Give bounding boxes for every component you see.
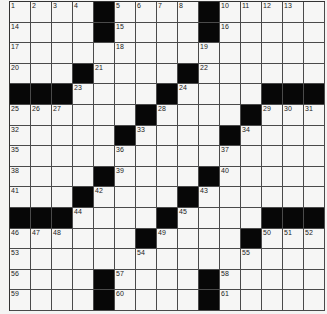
grid-cell[interactable]: 35 xyxy=(10,146,31,167)
grid-cell[interactable] xyxy=(241,64,262,85)
grid-cell[interactable]: 10 xyxy=(220,2,241,23)
grid-cell[interactable] xyxy=(241,43,262,64)
grid-cell[interactable] xyxy=(52,43,73,64)
grid-cell[interactable] xyxy=(199,146,220,167)
grid-cell[interactable]: 3 xyxy=(52,2,73,23)
grid-cell[interactable] xyxy=(283,290,304,311)
grid-cell[interactable] xyxy=(94,105,115,126)
grid-cell[interactable] xyxy=(73,290,94,311)
grid-cell[interactable] xyxy=(304,64,325,85)
grid-cell[interactable]: 18 xyxy=(115,43,136,64)
grid-cell[interactable]: 13 xyxy=(283,2,304,23)
grid-cell[interactable] xyxy=(283,270,304,291)
grid-cell[interactable] xyxy=(115,84,136,105)
grid-cell[interactable] xyxy=(73,43,94,64)
grid-cell[interactable] xyxy=(136,187,157,208)
grid-cell[interactable]: 34 xyxy=(241,126,262,147)
grid-cell[interactable] xyxy=(73,167,94,188)
grid-cell[interactable]: 5 xyxy=(115,2,136,23)
grid-cell[interactable] xyxy=(178,249,199,270)
grid-cell[interactable] xyxy=(115,105,136,126)
grid-cell[interactable] xyxy=(157,187,178,208)
grid-cell[interactable]: 22 xyxy=(199,64,220,85)
grid-cell[interactable] xyxy=(283,126,304,147)
grid-cell[interactable] xyxy=(241,23,262,44)
grid-cell[interactable] xyxy=(304,146,325,167)
grid-cell[interactable] xyxy=(262,270,283,291)
grid-cell[interactable] xyxy=(52,290,73,311)
grid-cell[interactable]: 17 xyxy=(10,43,31,64)
grid-cell[interactable] xyxy=(136,290,157,311)
grid-cell[interactable] xyxy=(115,187,136,208)
grid-cell[interactable]: 2 xyxy=(31,2,52,23)
grid-cell[interactable] xyxy=(31,146,52,167)
grid-cell[interactable] xyxy=(157,270,178,291)
grid-cell[interactable] xyxy=(199,84,220,105)
grid-cell[interactable] xyxy=(241,290,262,311)
grid-cell[interactable]: 8 xyxy=(178,2,199,23)
grid-cell[interactable]: 15 xyxy=(115,23,136,44)
grid-cell[interactable] xyxy=(262,167,283,188)
grid-cell[interactable]: 6 xyxy=(136,2,157,23)
grid-cell[interactable] xyxy=(136,270,157,291)
grid-cell[interactable] xyxy=(241,84,262,105)
grid-cell[interactable] xyxy=(283,23,304,44)
grid-cell[interactable]: 37 xyxy=(220,146,241,167)
grid-cell[interactable] xyxy=(52,64,73,85)
grid-cell[interactable]: 36 xyxy=(115,146,136,167)
grid-cell[interactable]: 42 xyxy=(94,187,115,208)
grid-cell[interactable] xyxy=(31,23,52,44)
grid-cell[interactable] xyxy=(94,229,115,250)
grid-cell[interactable]: 30 xyxy=(283,105,304,126)
grid-cell[interactable] xyxy=(136,23,157,44)
grid-cell[interactable] xyxy=(178,167,199,188)
grid-cell[interactable] xyxy=(241,146,262,167)
grid-cell[interactable] xyxy=(220,249,241,270)
grid-cell[interactable] xyxy=(283,64,304,85)
grid-cell[interactable] xyxy=(52,167,73,188)
grid-cell[interactable] xyxy=(283,146,304,167)
grid-cell[interactable] xyxy=(304,43,325,64)
grid-cell[interactable] xyxy=(262,126,283,147)
grid-cell[interactable] xyxy=(199,208,220,229)
grid-cell[interactable] xyxy=(220,64,241,85)
grid-cell[interactable] xyxy=(136,146,157,167)
grid-cell[interactable]: 59 xyxy=(10,290,31,311)
grid-cell[interactable]: 60 xyxy=(115,290,136,311)
grid-cell[interactable]: 39 xyxy=(115,167,136,188)
grid-cell[interactable] xyxy=(304,23,325,44)
grid-cell[interactable] xyxy=(157,146,178,167)
grid-cell[interactable] xyxy=(178,23,199,44)
grid-cell[interactable] xyxy=(262,249,283,270)
grid-cell[interactable] xyxy=(178,43,199,64)
grid-cell[interactable]: 1 xyxy=(10,2,31,23)
grid-cell[interactable]: 50 xyxy=(262,229,283,250)
grid-cell[interactable]: 55 xyxy=(241,249,262,270)
grid-cell[interactable] xyxy=(52,146,73,167)
grid-cell[interactable] xyxy=(199,105,220,126)
grid-cell[interactable] xyxy=(220,187,241,208)
grid-cell[interactable] xyxy=(31,126,52,147)
grid-cell[interactable]: 46 xyxy=(10,229,31,250)
grid-cell[interactable] xyxy=(31,249,52,270)
grid-cell[interactable]: 28 xyxy=(157,105,178,126)
grid-cell[interactable]: 53 xyxy=(10,249,31,270)
grid-cell[interactable]: 4 xyxy=(73,2,94,23)
grid-cell[interactable] xyxy=(157,126,178,147)
grid-cell[interactable] xyxy=(178,126,199,147)
grid-cell[interactable] xyxy=(178,105,199,126)
grid-cell[interactable] xyxy=(178,146,199,167)
grid-cell[interactable] xyxy=(94,43,115,64)
grid-cell[interactable] xyxy=(262,187,283,208)
grid-cell[interactable]: 56 xyxy=(10,270,31,291)
grid-cell[interactable]: 12 xyxy=(262,2,283,23)
grid-cell[interactable]: 19 xyxy=(199,43,220,64)
grid-cell[interactable] xyxy=(115,229,136,250)
grid-cell[interactable] xyxy=(31,290,52,311)
grid-cell[interactable] xyxy=(136,43,157,64)
grid-cell[interactable] xyxy=(304,2,325,23)
grid-cell[interactable] xyxy=(115,208,136,229)
grid-cell[interactable] xyxy=(157,23,178,44)
grid-cell[interactable]: 38 xyxy=(10,167,31,188)
grid-cell[interactable] xyxy=(31,187,52,208)
